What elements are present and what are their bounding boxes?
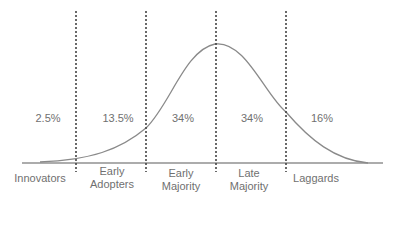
bell-curve bbox=[40, 44, 368, 163]
percent-laggards: 16% bbox=[292, 112, 352, 124]
label-early-adopters-line1: Early bbox=[77, 165, 147, 178]
label-early-majority: Early Majority bbox=[146, 167, 216, 193]
label-late-majority-line2: Majority bbox=[214, 180, 284, 193]
label-late-majority: Late Majority bbox=[214, 167, 284, 193]
percent-early-adopters: 13.5% bbox=[88, 112, 148, 124]
percent-early-majority: 34% bbox=[153, 112, 213, 124]
label-early-adopters: Early Adopters bbox=[77, 165, 147, 191]
label-innovators-line1: Innovators bbox=[5, 172, 75, 185]
label-early-majority-line1: Early bbox=[146, 167, 216, 180]
percent-late-majority: 34% bbox=[222, 112, 282, 124]
label-innovators: Innovators bbox=[5, 172, 75, 185]
label-early-adopters-line2: Adopters bbox=[77, 178, 147, 191]
percent-innovators: 2.5% bbox=[18, 112, 78, 124]
label-laggards: Laggards bbox=[281, 172, 351, 185]
label-laggards-line1: Laggards bbox=[281, 172, 351, 185]
label-late-majority-line1: Late bbox=[214, 167, 284, 180]
label-early-majority-line2: Majority bbox=[146, 180, 216, 193]
